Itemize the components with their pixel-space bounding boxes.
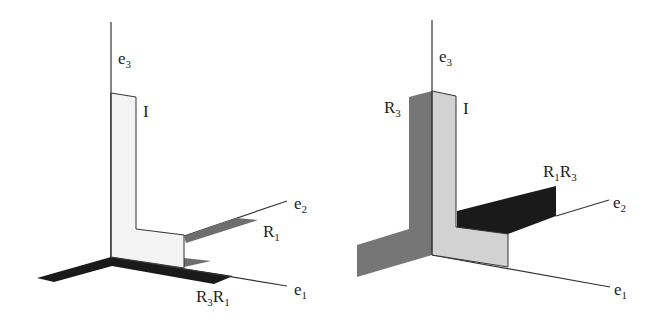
e2-label: e2 <box>613 193 626 214</box>
e3-label: e3 <box>118 49 132 70</box>
r1r3-shape <box>457 186 556 234</box>
e1-label: e1 <box>614 280 627 301</box>
right-panel: e3 R3 I R1R3 e2 e1 <box>357 20 627 301</box>
identity-label: I <box>463 99 469 118</box>
r1-lower-shape <box>184 258 211 267</box>
e3-label: e3 <box>439 47 453 68</box>
r1-label: R1 <box>263 222 280 243</box>
rotation-diagram: e3 I e2 R1 e1 R3R1 e3 R3 I R1R3 e2 e1 <box>0 0 659 322</box>
r1-shape <box>184 218 258 243</box>
r3r1-label: R3R1 <box>196 287 230 308</box>
e1-axis <box>432 255 610 287</box>
e1-label: e1 <box>294 280 307 301</box>
e2-axis <box>556 200 609 216</box>
left-panel: e3 I e2 R1 e1 R3R1 <box>37 22 307 308</box>
r3-label: R3 <box>384 98 401 119</box>
e2-label: e2 <box>294 194 307 215</box>
identity-label: I <box>143 102 149 121</box>
identity-shape <box>432 91 508 267</box>
r1r3-label: R1R3 <box>543 162 577 183</box>
